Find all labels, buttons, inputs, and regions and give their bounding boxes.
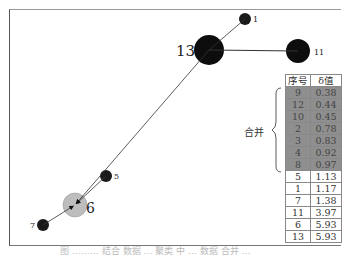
merge-brace-icon: [272, 88, 281, 172]
table-row: 30.83: [286, 135, 342, 147]
row-delta: 0.97: [311, 159, 342, 171]
row-delta: 0.83: [311, 135, 342, 147]
node-label-5: 5: [114, 172, 119, 181]
row-delta: 0.78: [311, 123, 342, 135]
row-delta: 0.38: [311, 87, 342, 99]
row-delta: 0.92: [311, 147, 342, 159]
row-index: 10: [286, 111, 311, 123]
table-row: 90.38: [286, 87, 342, 99]
node-label-7: 7: [30, 221, 35, 230]
node-label-13: 13: [176, 42, 195, 60]
row-index: 11: [286, 207, 311, 219]
row-index: 4: [286, 147, 311, 159]
row-delta: 0.44: [311, 99, 342, 111]
node-label-11: 11: [314, 48, 324, 57]
row-delta: 1.17: [311, 183, 342, 195]
row-delta: 3.97: [311, 207, 342, 219]
table-row: 71.38: [286, 195, 342, 207]
table-header-row: 序号 δ值: [286, 75, 342, 87]
header-index: 序号: [286, 75, 311, 87]
row-delta: 1.38: [311, 195, 342, 207]
node-label-6: 6: [86, 200, 95, 216]
row-index: 9: [286, 87, 311, 99]
node-label-1: 1: [253, 15, 258, 24]
table-row: 20.78: [286, 123, 342, 135]
row-index: 13: [286, 231, 311, 243]
row-delta: 5.93: [311, 231, 342, 243]
row-delta: 1.13: [311, 171, 342, 183]
row-delta: 0.45: [311, 111, 342, 123]
row-index: 12: [286, 99, 311, 111]
table-row: 80.97: [286, 159, 342, 171]
table-row: 40.92: [286, 147, 342, 159]
row-index: 2: [286, 123, 311, 135]
edge-13-6: [76, 50, 209, 203]
figure-caption: 图 ……… 结合 数据 … 聚类 中 … 数据 合并 …: [60, 244, 251, 257]
table-row: 113.97: [286, 207, 342, 219]
table-row: 120.44: [286, 99, 342, 111]
header-delta: δ值: [311, 75, 342, 87]
row-index: 8: [286, 159, 311, 171]
table-row: 100.45: [286, 111, 342, 123]
merge-label: 合并: [244, 124, 264, 139]
row-index: 6: [286, 219, 311, 231]
row-index: 1: [286, 183, 311, 195]
delta-table: 序号 δ值 90.38120.44100.4520.7830.8340.9280…: [285, 74, 342, 243]
row-delta: 5.93: [311, 219, 342, 231]
table-row: 51.13: [286, 171, 342, 183]
table-row: 135.93: [286, 231, 342, 243]
table-row: 11.17: [286, 183, 342, 195]
row-index: 3: [286, 135, 311, 147]
edge-13-1: [209, 19, 245, 50]
table-row: 65.93: [286, 219, 342, 231]
row-index: 7: [286, 195, 311, 207]
row-index: 5: [286, 171, 311, 183]
